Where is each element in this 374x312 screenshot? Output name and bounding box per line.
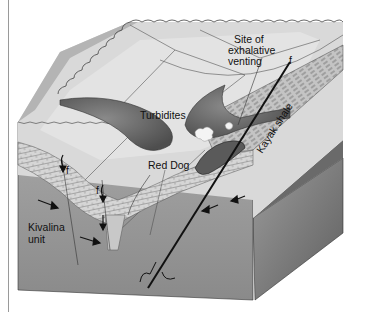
label-red-dog: Red Dog <box>148 159 190 171</box>
venting-cloud-2 <box>225 122 233 129</box>
label-fault-f: f <box>289 54 292 66</box>
label-kivalina-1: Kivalina <box>28 221 65 233</box>
block-diagram: Site of exhalative venting f Turbidites … <box>0 0 374 312</box>
label-fault-f-small-1: f <box>66 165 69 176</box>
label-turbidites: Turbidites <box>140 109 186 121</box>
water-surface <box>130 20 343 22</box>
label-fault-f-small-2: f <box>96 185 99 196</box>
label-site-3: venting <box>228 55 262 67</box>
label-kivalina-2: unit <box>28 233 45 245</box>
